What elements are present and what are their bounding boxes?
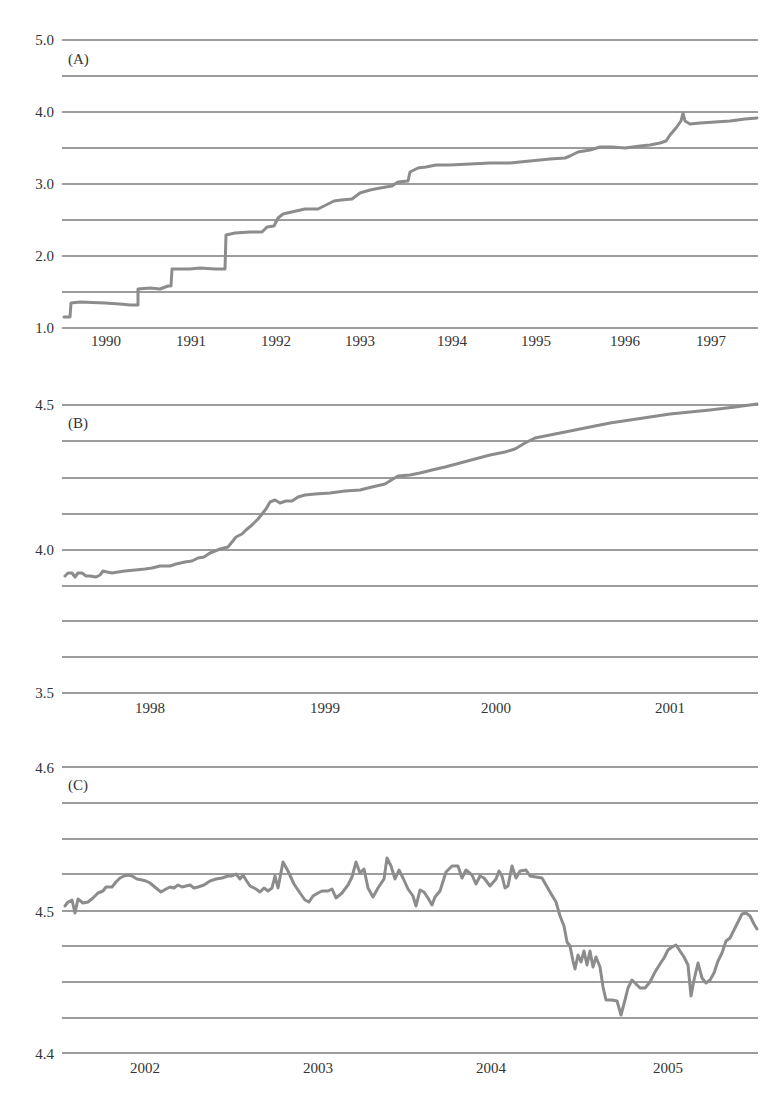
x-tick: 2002 [130, 1060, 160, 1076]
x-tick: 1999 [310, 700, 340, 716]
y-tick: 3.0 [35, 176, 54, 192]
x-tick: 1995 [521, 333, 551, 349]
series-line-b [65, 404, 757, 577]
y-tick: 4.5 [35, 904, 54, 920]
y-tick: 5.0 [35, 32, 54, 48]
y-tick: 4.0 [35, 104, 54, 120]
panel-a: 5.0 4.0 3.0 2.0 1.0 (A) 1990 1991 1992 1… [35, 32, 758, 349]
panel-label-a: (A) [68, 51, 89, 68]
y-tick: 2.0 [35, 248, 54, 264]
x-tick: 2003 [303, 1060, 333, 1076]
x-tick: 2000 [481, 700, 511, 716]
x-tick: 2005 [653, 1060, 683, 1076]
series-line-c [65, 858, 757, 1015]
x-tick: 2001 [655, 700, 685, 716]
panel-a-grid [62, 40, 758, 328]
x-tick: 1993 [345, 333, 375, 349]
x-tick: 1994 [437, 333, 468, 349]
panel-label-b: (B) [68, 415, 88, 432]
panel-c: 4.6 4.5 4.4 (C) 2002 2003 2004 2005 [35, 760, 758, 1076]
x-tick: 1992 [261, 333, 291, 349]
panel-label-c: (C) [68, 777, 88, 794]
x-tick: 1996 [610, 333, 641, 349]
y-tick: 1.0 [35, 320, 54, 336]
y-tick: 4.6 [35, 760, 54, 776]
x-tick: 1990 [91, 333, 121, 349]
x-tick: 1991 [176, 333, 206, 349]
x-tick: 1997 [696, 333, 727, 349]
x-tick: 1998 [135, 700, 165, 716]
y-tick: 4.5 [35, 397, 54, 413]
panel-b-grid [62, 405, 758, 693]
panel-c-grid [62, 767, 758, 1053]
panel-b: 4.5 4.0 3.5 (B) 1998 1999 2000 2001 [35, 397, 758, 716]
y-tick: 3.5 [35, 685, 54, 701]
figure: 5.0 4.0 3.0 2.0 1.0 (A) 1990 1991 1992 1… [0, 0, 784, 1100]
y-tick: 4.4 [35, 1046, 54, 1062]
series-line-a [64, 113, 757, 317]
y-tick: 4.0 [35, 542, 54, 558]
x-tick: 2004 [476, 1060, 507, 1076]
